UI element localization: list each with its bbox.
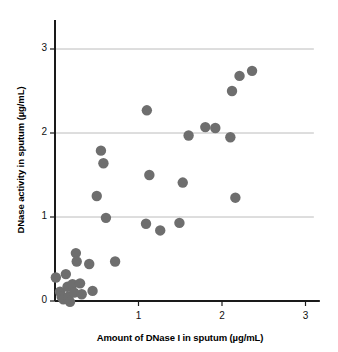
data-point <box>144 170 154 180</box>
data-point <box>178 177 188 187</box>
data-point <box>247 66 257 76</box>
x-tick-label: 1 <box>129 310 149 321</box>
data-point <box>155 225 165 235</box>
plot-canvas <box>0 0 338 352</box>
data-point <box>230 192 240 202</box>
data-point <box>225 132 235 142</box>
data-point <box>234 71 244 81</box>
data-point <box>65 297 75 307</box>
y-tick-label: 1 <box>33 210 47 221</box>
y-tick-label: 0 <box>33 294 47 305</box>
data-point <box>96 145 106 155</box>
x-tick-label: 3 <box>296 310 316 321</box>
data-point <box>72 256 82 266</box>
data-point <box>98 158 108 168</box>
data-point <box>101 213 111 223</box>
scatter-plot-figure: 0123 123 DNase activity in sputum (µg/mL… <box>0 0 338 352</box>
data-point <box>141 219 151 229</box>
data-point <box>210 123 220 133</box>
data-point <box>87 286 97 296</box>
data-point <box>200 122 210 132</box>
data-point <box>84 259 94 269</box>
data-point <box>183 130 193 140</box>
data-point <box>110 256 120 266</box>
data-point <box>174 218 184 228</box>
data-point <box>77 289 87 299</box>
data-point <box>142 105 152 115</box>
data-point <box>227 86 237 96</box>
data-point <box>61 269 71 279</box>
data-points-group <box>51 66 258 307</box>
y-axis-title: DNase activity in sputum (µg/mL) <box>12 10 30 310</box>
data-point <box>51 272 61 282</box>
y-tick-label: 2 <box>33 126 47 137</box>
x-axis-title: Amount of DNase I in sputum (µg/mL) <box>40 332 320 343</box>
x-tick-label: 2 <box>212 310 232 321</box>
data-point <box>75 278 85 288</box>
axes-group <box>55 20 320 301</box>
data-point <box>92 191 102 201</box>
y-tick-label: 3 <box>33 42 47 53</box>
